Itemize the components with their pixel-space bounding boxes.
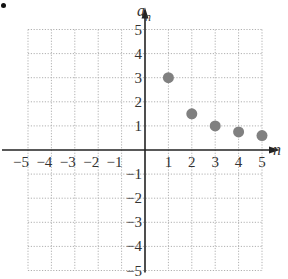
y-tick-label: 2 [135, 94, 143, 110]
y-tick-label: −4 [126, 238, 142, 254]
sequence-plot: −5−4−3−2−112345−5−4−3−2−112345 n an [0, 0, 288, 279]
x-tick-label: 2 [188, 154, 196, 170]
y-tick-label: −2 [126, 190, 142, 206]
data-point [163, 72, 174, 83]
data-point [257, 130, 268, 141]
y-tick-label: 1 [135, 118, 143, 134]
x-tick-label: −1 [107, 154, 123, 170]
data-point [210, 120, 221, 131]
y-tick-label: 3 [135, 70, 143, 86]
data-points [163, 72, 268, 141]
data-point [186, 108, 197, 119]
x-tick-label: −2 [83, 154, 99, 170]
x-tick-label: 4 [235, 154, 243, 170]
y-tick-label: −1 [126, 166, 142, 182]
y-tick-label: 4 [135, 46, 143, 62]
y-tick-label: −5 [126, 263, 142, 279]
x-axis-label: n [273, 141, 281, 158]
x-tick-label: 3 [211, 154, 219, 170]
y-tick-label: −3 [126, 214, 142, 230]
y-tick-label: 5 [135, 22, 143, 38]
x-tick-label: −4 [36, 154, 52, 170]
data-point [233, 126, 244, 137]
x-tick-label: 5 [258, 154, 266, 170]
x-tick-label: 1 [165, 154, 173, 170]
x-tick-label: −3 [60, 154, 76, 170]
x-tick-label: −5 [13, 154, 29, 170]
